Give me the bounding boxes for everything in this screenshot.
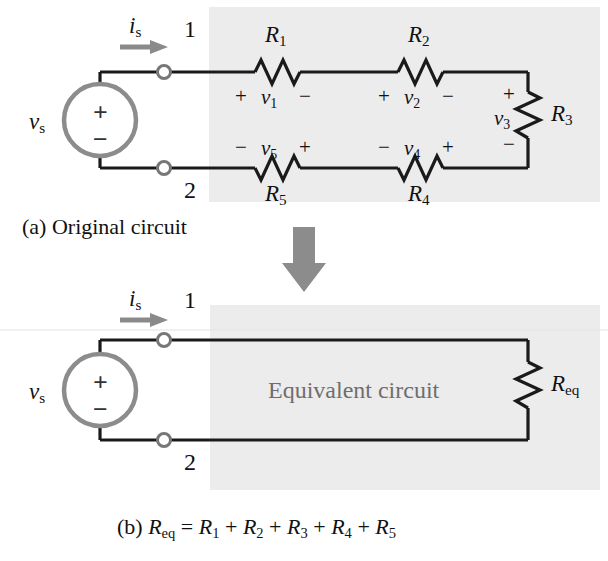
panel-b-source-minus: − xyxy=(93,397,108,423)
circuit-figure: + − vs is 1 2 R1 R2 R3 R4 R5 + v1 − + v2… xyxy=(0,0,608,561)
panel-a-node-2-label: 2 xyxy=(184,178,196,202)
panel-b-node-2-label: 2 xyxy=(184,450,196,474)
panel-a-caption: (a) Original circuit xyxy=(22,216,187,238)
panel-a-source-label: vs xyxy=(29,110,45,135)
voltage-v1-label: v1 xyxy=(261,87,277,111)
voltage-v3-plus-sign: + xyxy=(503,84,515,105)
voltage-v1-minus-sign: − xyxy=(299,86,311,107)
voltage-v3-label: v3 xyxy=(494,108,510,132)
panel-b-current-arrow xyxy=(120,313,168,327)
voltage-v2-plus-sign: + xyxy=(378,86,390,107)
panel-b-caption: (b) Req = R1 + R2 + R3 + R4 + R5 xyxy=(117,516,396,541)
panel-a-source-plus: + xyxy=(93,100,108,126)
resistor-req-label: Req xyxy=(551,372,579,397)
panel-a-current-arrow xyxy=(120,40,168,54)
panel-a-current-label: is xyxy=(129,14,141,39)
voltage-v3-minus-sign: − xyxy=(503,134,515,155)
panel-b-node-1-terminal xyxy=(158,334,171,347)
voltage-v5-plus-sign: + xyxy=(299,137,311,158)
panel-a-source-minus: − xyxy=(93,127,108,153)
panel-b-source-plus: + xyxy=(93,370,108,396)
transition-down-arrow xyxy=(282,227,326,292)
panel-b-node-2-terminal xyxy=(158,434,171,447)
resistor-r4-label: R4 xyxy=(408,182,430,207)
panel-b-current-label: is xyxy=(129,287,141,312)
panel-a-node-1-terminal xyxy=(158,66,171,79)
voltage-v2-label: v2 xyxy=(404,87,420,111)
voltage-v4-plus-sign: + xyxy=(442,137,454,158)
resistor-r5-label: R5 xyxy=(265,182,287,207)
voltage-v5-label: v5 xyxy=(261,138,277,162)
panel-b-source-label: vs xyxy=(29,380,45,405)
resistor-r1-label: R1 xyxy=(265,23,287,48)
panel-b-node-1-label: 1 xyxy=(184,288,196,312)
voltage-v1-plus-sign: + xyxy=(235,86,247,107)
panel-a-node-2-terminal xyxy=(158,162,171,175)
voltage-v4-label: v4 xyxy=(404,138,420,162)
panel-a-node-1-label: 1 xyxy=(184,17,196,41)
resistor-r2-label: R2 xyxy=(408,23,430,48)
voltage-v5-minus-sign: − xyxy=(235,137,247,158)
equivalent-circuit-text: Equivalent circuit xyxy=(268,378,439,402)
resistor-r3-label: R3 xyxy=(551,102,573,127)
voltage-v4-minus-sign: − xyxy=(378,137,390,158)
voltage-v2-minus-sign: − xyxy=(442,86,454,107)
